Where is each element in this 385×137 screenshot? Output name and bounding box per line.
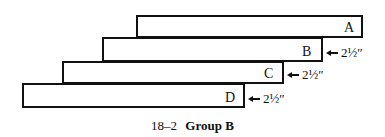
- board-c: [62, 61, 284, 84]
- board-a: [136, 15, 363, 38]
- board-c-offset: 2½″: [287, 68, 324, 81]
- board-a-label: A: [344, 21, 354, 35]
- caption-title: Group B: [185, 118, 234, 133]
- board-c-label: C: [264, 67, 273, 81]
- board-d-offset: 2½″: [248, 92, 285, 105]
- board-d-label: D: [225, 91, 235, 105]
- figure-caption: 18–2 Group B: [0, 118, 385, 134]
- arrow-left-icon: [248, 95, 260, 103]
- arrow-left-icon: [287, 71, 299, 79]
- board-b-offset-value: 2½″: [341, 46, 363, 59]
- board-b-offset: 2½″: [326, 46, 363, 59]
- board-d: [22, 83, 245, 108]
- arrow-left-icon: [326, 49, 338, 57]
- board-b-label: B: [302, 45, 311, 59]
- board-c-offset-value: 2½″: [302, 68, 324, 81]
- caption-number: 18–2: [151, 118, 177, 133]
- board-b: [102, 37, 323, 62]
- board-d-offset-value: 2½″: [263, 92, 285, 105]
